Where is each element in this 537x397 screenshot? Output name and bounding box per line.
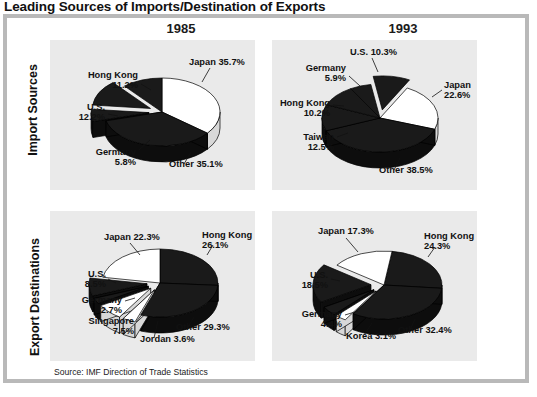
pie-slice-label: U.S.8.5% xyxy=(85,269,107,289)
pie-chart-import-sources-1985: Japan 35.7%Other 35.1%Germany5.8%U.S.12.… xyxy=(50,40,255,190)
pie-chart-import-sources-1993: Japan22.6%Other 38.5%Taiwan12.5%Hong Kon… xyxy=(272,40,477,190)
pie-slice-label: Germany2.7% xyxy=(82,295,123,315)
pie-slice-label: Jordan 3.6% xyxy=(140,334,196,344)
pie-chart-export-destinations-1985: Hong Kong26.1%Other 29.3%Jordan 3.6%Sing… xyxy=(50,211,255,361)
row-label-export-destinations: Export Destinations xyxy=(28,217,42,377)
pie-slice-label: Korea 3.1% xyxy=(346,331,397,341)
column-header-1985: 1985 xyxy=(121,21,241,36)
pie-slice-label: Germany5.8% xyxy=(96,147,137,167)
column-header-1993: 1993 xyxy=(343,21,463,36)
pie-slice-label: Taiwan12.5% xyxy=(303,132,335,152)
pie-slice-label: Japan 17.3% xyxy=(318,226,375,236)
pie-slice-label: Germany5.9% xyxy=(306,63,347,83)
pie-svg-export-1993: Hong Kong24.3%Other 32.4%Korea 3.1%Germa… xyxy=(272,211,477,361)
pie-slice-label: Other 32.4% xyxy=(398,325,452,335)
pie-slice-label: Japan22.6% xyxy=(444,80,471,100)
pie-slice-label: Hong Kong11.2% xyxy=(88,70,139,90)
pie-slice-label: Japan 22.3% xyxy=(104,232,161,242)
source-note: Source: IMF Direction of Trade Statistic… xyxy=(54,367,208,377)
page-title: Leading Sources of Imports/Destination o… xyxy=(4,0,325,14)
pie-slice-label: Other 35.1% xyxy=(169,159,223,169)
pie-slice-label: U.S.18.5% xyxy=(302,270,329,290)
figure-frame: 1985 1993 Import Sources Export Destinat… xyxy=(3,14,529,383)
pie-slice-label: Germany4.4% xyxy=(302,309,343,329)
pie-slice-label: Hong Kong10.2% xyxy=(280,98,331,118)
pie-svg-import-1985: Japan 35.7%Other 35.1%Germany5.8%U.S.12.… xyxy=(50,40,255,190)
pie-slice-label: U.S. 10.3% xyxy=(350,47,398,57)
pie-slice-label: Japan 35.7% xyxy=(189,57,246,67)
pie-svg-import-1993: Japan22.6%Other 38.5%Taiwan12.5%Hong Kon… xyxy=(272,40,477,190)
pie-chart-export-destinations-1993: Hong Kong24.3%Other 32.4%Korea 3.1%Germa… xyxy=(272,211,477,361)
pie-slice-label: Other 29.3% xyxy=(176,322,230,332)
pie-slice-label: Other 38.5% xyxy=(379,165,433,175)
pie-svg-export-1985: Hong Kong26.1%Other 29.3%Jordan 3.6%Sing… xyxy=(50,211,255,361)
pie-slice-label: U.S.12.2% xyxy=(79,102,106,122)
pie-slice-label: Hong Kong26.1% xyxy=(202,230,252,250)
pie-slice-label: Hong Kong24.3% xyxy=(424,231,474,251)
row-label-import-sources: Import Sources xyxy=(26,40,40,180)
